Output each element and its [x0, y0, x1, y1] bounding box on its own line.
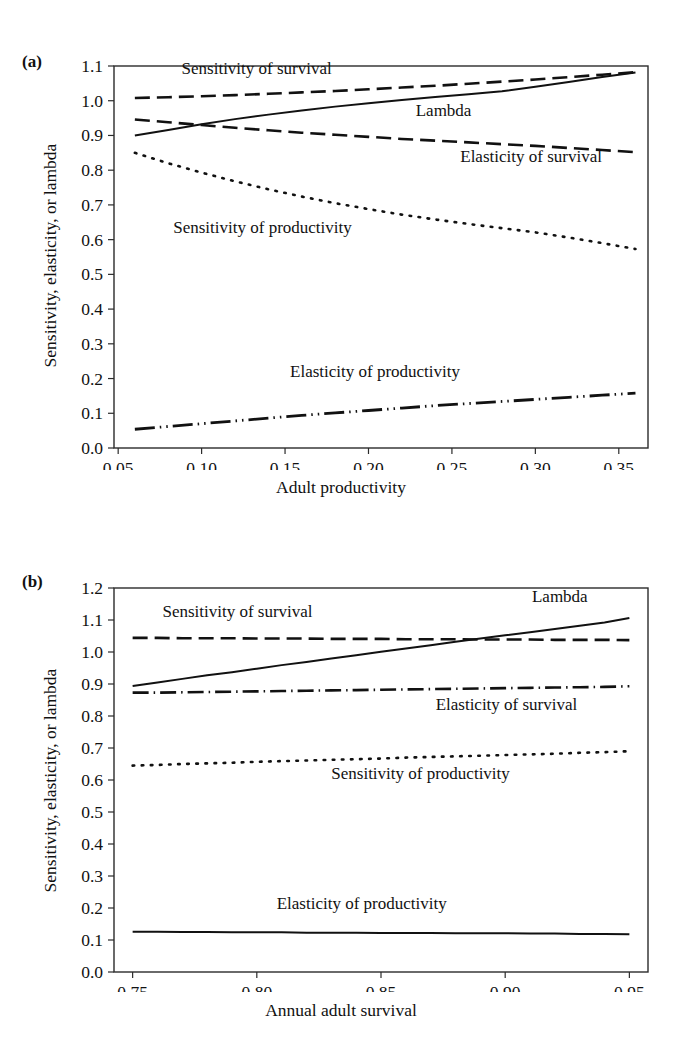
series-line-lambda [133, 618, 630, 686]
series-annotation-sensitivity-of-productivity: Sensitivity of productivity [331, 764, 510, 783]
x-axis-tick-label: 0.35 [603, 458, 634, 470]
series-annotation-lambda: Lambda [532, 587, 588, 606]
y-axis-tick-label: 0.6 [81, 230, 103, 250]
y-axis-tick-label: 0.1 [81, 403, 103, 423]
y-axis-tick-label: 0.5 [81, 802, 103, 822]
y-axis-tick-label: 0.3 [81, 866, 103, 886]
y-axis-tick-label: 1.2 [81, 578, 103, 598]
series-annotation-sensitivity-of-productivity: Sensitivity of productivity [173, 218, 352, 237]
series-annotation-elasticity-of-productivity: Elasticity of productivity [290, 362, 460, 381]
y-axis-tick-label: 0.7 [81, 195, 103, 215]
series-line-sensitivity-of-survival [133, 638, 630, 640]
panel-a-plot: 0.00.10.20.30.40.50.60.70.80.91.01.10.05… [0, 0, 682, 470]
y-axis-tick-label: 0.2 [81, 369, 103, 389]
x-axis-tick-label: 0.95 [614, 982, 645, 992]
y-axis-tick-label: 0.6 [81, 770, 103, 790]
panel-b-y-axis-label: Sensitivity, elasticity, or lambda [40, 581, 61, 981]
x-axis-tick-label: 0.15 [270, 458, 301, 470]
series-line-elasticity-of-survival [133, 686, 630, 692]
series-annotation-sensitivity-of-survival: Sensitivity of survival [162, 602, 312, 621]
y-axis-tick-label: 0.0 [81, 962, 103, 982]
y-axis-tick-label: 0.4 [81, 299, 103, 319]
x-axis-tick-label: 0.85 [366, 982, 397, 992]
series-annotation-elasticity-of-survival: Elasticity of survival [436, 695, 578, 714]
y-axis-tick-label: 0.4 [81, 834, 103, 854]
y-axis-tick-label: 0.0 [81, 438, 103, 458]
panel-a-x-axis-label: Adult productivity [0, 477, 682, 498]
y-axis-tick-label: 0.8 [81, 706, 103, 726]
panel-b-x-axis-label: Annual adult survival [0, 1000, 682, 1021]
y-axis-tick-label: 0.2 [81, 898, 103, 918]
y-axis-tick-label: 0.5 [81, 264, 103, 284]
series-annotation-sensitivity-of-survival: Sensitivity of survival [182, 59, 332, 78]
y-axis-tick-label: 0.3 [81, 334, 103, 354]
series-annotation-lambda: Lambda [416, 101, 472, 120]
y-axis-tick-label: 0.8 [81, 160, 103, 180]
x-axis-tick-label: 0.80 [242, 982, 273, 992]
plot-frame [114, 66, 648, 448]
x-axis-tick-label: 0.05 [103, 458, 134, 470]
x-axis-tick-label: 0.10 [186, 458, 217, 470]
x-axis-tick-label: 0.20 [353, 458, 384, 470]
y-axis-tick-label: 0.7 [81, 738, 103, 758]
x-axis-tick-label: 0.75 [117, 982, 148, 992]
figure-container: (a) Sensitivity, elasticity, or lambda 0… [0, 0, 682, 1047]
panel-b: (b) Sensitivity, elasticity, or lambda 0… [0, 520, 682, 1047]
y-axis-tick-label: 1.1 [81, 56, 103, 76]
series-line-elasticity-of-productivity [133, 932, 630, 935]
y-axis-tick-label: 0.9 [81, 125, 103, 145]
y-axis-tick-label: 0.1 [81, 930, 103, 950]
y-axis-tick-label: 0.9 [81, 674, 103, 694]
y-axis-tick-label: 1.0 [81, 91, 103, 111]
panel-a-y-axis-label: Sensitivity, elasticity, or lambda [40, 56, 61, 456]
y-axis-tick-label: 1.1 [81, 610, 103, 630]
series-annotation-elasticity-of-productivity: Elasticity of productivity [277, 894, 447, 913]
y-axis-tick-label: 1.0 [81, 642, 103, 662]
x-axis-tick-label: 0.30 [520, 458, 551, 470]
series-line-elasticity-of-productivity [135, 393, 636, 429]
x-axis-tick-label: 0.90 [490, 982, 521, 992]
series-annotation-elasticity-of-survival: Elasticity of survival [460, 147, 602, 166]
panel-a: (a) Sensitivity, elasticity, or lambda 0… [0, 0, 682, 520]
x-axis-tick-label: 0.25 [437, 458, 468, 470]
panel-b-plot: 0.00.10.20.30.40.50.60.70.80.91.01.11.20… [0, 520, 682, 992]
